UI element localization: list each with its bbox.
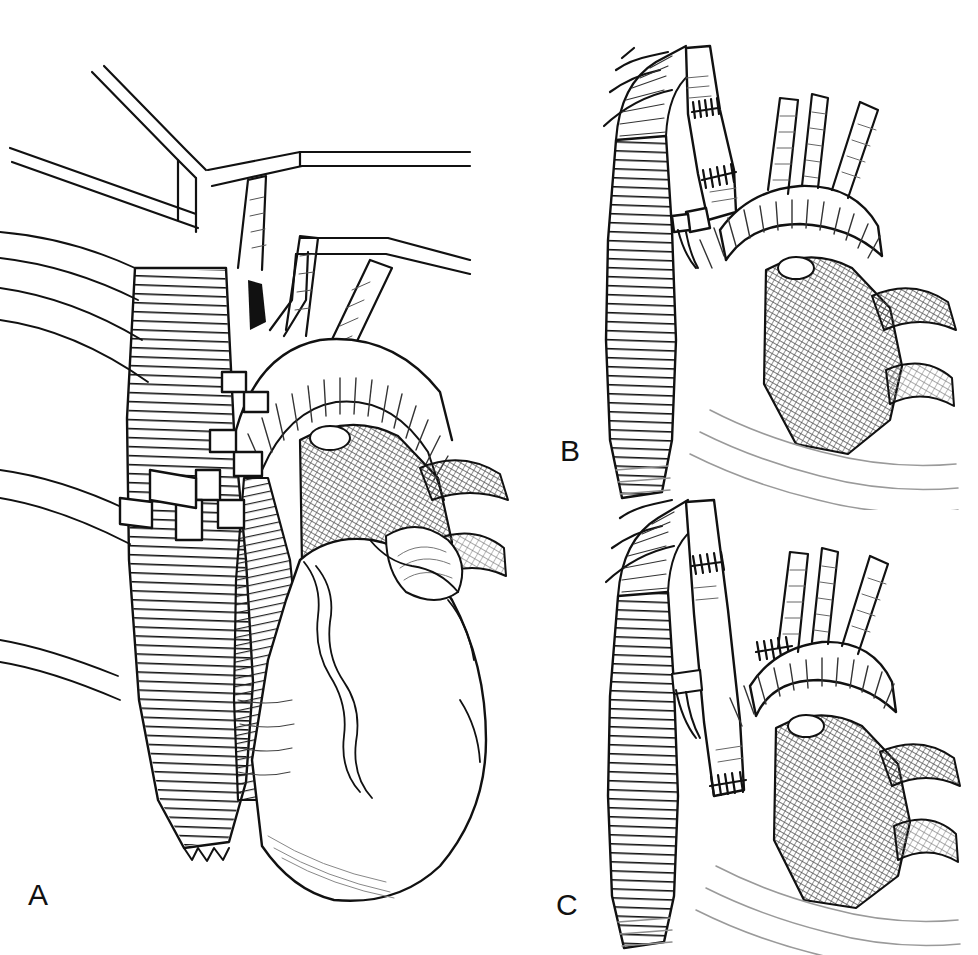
- retractor-upper-left: [92, 66, 206, 232]
- panel-a-illustration: [0, 0, 560, 955]
- c-clip-tie: [676, 690, 700, 738]
- b-ascending-aorta-arch: [720, 186, 882, 260]
- panel-label-c: C: [556, 890, 578, 920]
- arch-branch-hatching: [250, 197, 370, 344]
- c-left-common-carotid: [812, 548, 838, 644]
- b-left-subclavian-branch: [832, 102, 878, 198]
- c-left-subclavian: [606, 500, 674, 582]
- b-descending-aorta: [606, 136, 676, 498]
- c-pulmonary-artery: [774, 715, 960, 908]
- b-pulmonary-highlight: [778, 257, 814, 279]
- panel-label-b: B: [560, 436, 580, 466]
- b-bypass-graft: [686, 46, 736, 220]
- panel-c-illustration: [560, 490, 978, 955]
- retractor-horizontal-left: [10, 148, 198, 228]
- medical-illustration-figure: A B C: [0, 0, 978, 955]
- c-pulmonary-highlight: [788, 715, 824, 737]
- pulmonary-highlight: [310, 426, 350, 450]
- panel-b-illustration: [560, 40, 978, 510]
- panel-a-linework: [0, 66, 508, 901]
- c-ascending-aorta-arch: [750, 642, 896, 716]
- b-vascular-clip: [672, 208, 710, 232]
- c-descending-aorta: [608, 592, 678, 948]
- c-bypass-graft: [686, 500, 744, 796]
- intercostal-vessels: [0, 232, 148, 700]
- b-pulmonary-artery: [764, 257, 956, 454]
- brachiocephalic-trunk: [238, 176, 266, 270]
- aortic-shadow-wedge: [248, 280, 266, 330]
- b-clip-tie: [678, 230, 698, 268]
- retractor-over-arch: [270, 238, 470, 336]
- c-left-subclavian-branch: [842, 556, 888, 654]
- b-left-common-carotid: [802, 94, 828, 188]
- descending-aorta: [127, 268, 253, 848]
- panel-label-a: A: [28, 880, 48, 910]
- c-arch-superior: [618, 500, 692, 596]
- left-common-carotid: [286, 236, 318, 336]
- aorta-cut-margin: [184, 848, 229, 861]
